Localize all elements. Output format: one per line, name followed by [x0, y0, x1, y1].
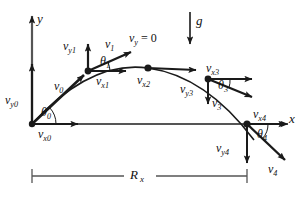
label-v3-sub: 3: [217, 103, 221, 112]
label-vy1-sub: y1: [68, 46, 76, 55]
label-vy3: vy3: [180, 83, 193, 98]
label-vy3-sub: y3: [185, 89, 193, 98]
label-v4-sub: 4: [273, 169, 277, 178]
label-vx0-sub: x0: [43, 134, 51, 143]
label-vy0: vy0: [5, 94, 18, 109]
label-vx0: vx0: [38, 128, 51, 143]
apex-vy-zero-note: vy = 0: [129, 32, 157, 47]
label-vy1: vy1: [63, 40, 76, 55]
range-label-base: R: [130, 167, 138, 182]
label-vx2-sub: x2: [142, 80, 150, 89]
label-vx3: vx3: [206, 62, 219, 77]
apex-vy-zero-eq: = 0: [141, 31, 157, 45]
label-v0: v0: [54, 80, 63, 95]
projectile-motion-figure: y x g vy = 0 vy0 vx0 θ0 v0 vy1 vx1 θ1 v1…: [0, 0, 301, 198]
label-v1-sub: 1: [110, 44, 114, 53]
label-vx1: vx1: [96, 75, 109, 90]
label-theta0-sub: 0: [47, 112, 51, 121]
range-label: Rx: [130, 168, 144, 184]
gravity-label: g: [196, 14, 203, 27]
launch-point-vectors: [29, 64, 84, 127]
diagram-canvas: [0, 0, 301, 198]
label-vy4-sub: y4: [221, 148, 229, 157]
label-vx4-sub: x4: [258, 114, 266, 123]
label-theta1: θ1: [100, 55, 110, 70]
label-v3: v3: [212, 97, 221, 112]
x-axis-label: x: [289, 112, 295, 125]
label-vy4: vy4: [216, 142, 229, 157]
label-vx4: vx4: [253, 108, 266, 123]
label-theta4-sub: 4: [263, 134, 267, 143]
label-v1: v1: [105, 38, 114, 53]
label-theta0: θ0: [41, 106, 51, 121]
label-vx2: vx2: [137, 74, 150, 89]
label-vy0-sub: y0: [10, 100, 18, 109]
label-theta1-sub: 1: [106, 61, 110, 70]
label-theta3-sub: 3: [224, 85, 228, 94]
range-label-sub: x: [140, 174, 144, 184]
label-v4: v4: [268, 163, 277, 178]
label-vx1-sub: x1: [101, 81, 109, 90]
label-vx3-sub: x3: [211, 68, 219, 77]
label-theta3: θ3: [218, 79, 228, 94]
y-axis-label: y: [37, 12, 43, 25]
label-v0-sub: 0: [59, 86, 63, 95]
apex-point-vectors: [144, 64, 196, 71]
label-theta4: θ4: [257, 128, 267, 143]
